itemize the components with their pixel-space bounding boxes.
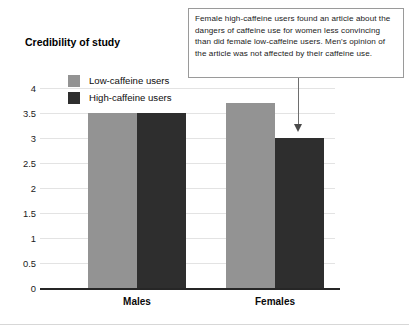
y-axis-tick-label: 0 <box>2 283 36 294</box>
y-axis-tick-label: 0.5 <box>2 258 36 269</box>
y-axis-tick-label: 1 <box>2 233 36 244</box>
plot-area <box>40 88 335 288</box>
chart-figure: Credibility of study Low-caffeine users … <box>0 0 409 335</box>
annotation-callout-text: Female high-caffeine users found an arti… <box>195 13 398 59</box>
bar-males-low-caffeine <box>88 113 137 288</box>
annotation-arrow-icon <box>294 124 302 132</box>
page-divider <box>0 324 409 325</box>
y-axis-tick-label: 1.5 <box>2 208 36 219</box>
legend-swatch-low-caffeine <box>68 75 80 87</box>
y-axis-title: Credibility of study <box>25 36 145 49</box>
annotation-callout: Female high-caffeine users found an arti… <box>188 8 404 78</box>
gridline <box>40 113 335 114</box>
bar-females-high-caffeine <box>275 138 324 288</box>
x-axis-line <box>40 288 340 290</box>
y-axis-tick-label: 4 <box>2 83 36 94</box>
legend-item-low-caffeine: Low-caffeine users <box>68 73 171 88</box>
y-axis-tick-label: 3 <box>2 133 36 144</box>
y-axis-tick-label: 3.5 <box>2 108 36 119</box>
y-axis-ticks: 00.511.522.533.54 <box>0 88 36 288</box>
gridline <box>40 88 335 89</box>
x-axis-label-males: Males <box>88 296 186 307</box>
y-axis-tick-label: 2.5 <box>2 158 36 169</box>
bar-females-low-caffeine <box>226 103 275 288</box>
y-axis-tick-label: 2 <box>2 183 36 194</box>
x-axis-label-females: Females <box>226 296 324 307</box>
bar-males-high-caffeine <box>137 113 186 288</box>
legend-label-low-caffeine: Low-caffeine users <box>89 75 169 86</box>
annotation-leader-line <box>298 78 299 126</box>
